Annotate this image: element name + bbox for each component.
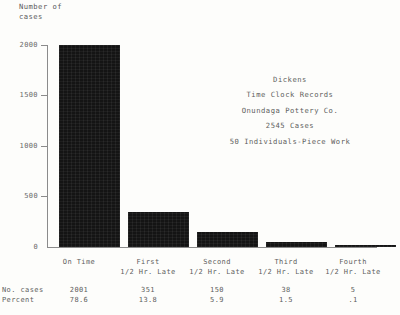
category-label-third-line1: Third	[274, 258, 297, 266]
bar-first-half-hr-late[interactable]	[128, 212, 189, 248]
category-label-fourth: Fourth 1/2 Hr. Late	[303, 258, 400, 277]
category-label-first-line1: First	[136, 258, 159, 266]
y-axis-title-line2: cases	[19, 12, 43, 21]
y-tick-label-1500: 1500	[4, 91, 38, 99]
annotation-block: Dickens Time Clock Records Onundaga Pott…	[196, 72, 384, 149]
category-label-fourth-line1: Fourth	[339, 258, 367, 266]
x-axis-line	[47, 247, 377, 248]
bar-fourth-half-hr-late[interactable]	[335, 245, 396, 247]
annotation-line-company: Onundaga Pottery Co.	[196, 103, 384, 118]
annotation-line-sample: 50 Individuals-Piece Work	[196, 134, 384, 149]
bar-on-time[interactable]	[59, 45, 120, 247]
annotation-line-case-count: 2545 Cases	[196, 118, 384, 133]
y-tick-label-500: 500	[4, 192, 38, 200]
table-cell-percent-fourth: .1	[303, 296, 400, 304]
annotation-line-record-type: Time Clock Records	[196, 87, 384, 102]
category-label-fourth-line2: 1/2 Hr. Late	[325, 268, 380, 276]
y-axis-title-line1: Number of	[19, 2, 62, 11]
annotation-line-company-person: Dickens	[196, 72, 384, 87]
y-tick-label-0: 0	[4, 243, 38, 251]
table-cell-cases-fourth: 5	[303, 286, 400, 294]
y-tick-label-1000: 1000	[4, 142, 38, 150]
y-axis-title: Number of cases	[19, 2, 62, 21]
bar-third-half-hr-late[interactable]	[266, 242, 327, 248]
y-tick-label-2000: 2000	[4, 41, 38, 49]
category-label-second-line1: Second	[203, 258, 231, 266]
category-label-on-time-line1: On Time	[63, 258, 95, 266]
bar-second-half-hr-late[interactable]	[197, 232, 258, 247]
